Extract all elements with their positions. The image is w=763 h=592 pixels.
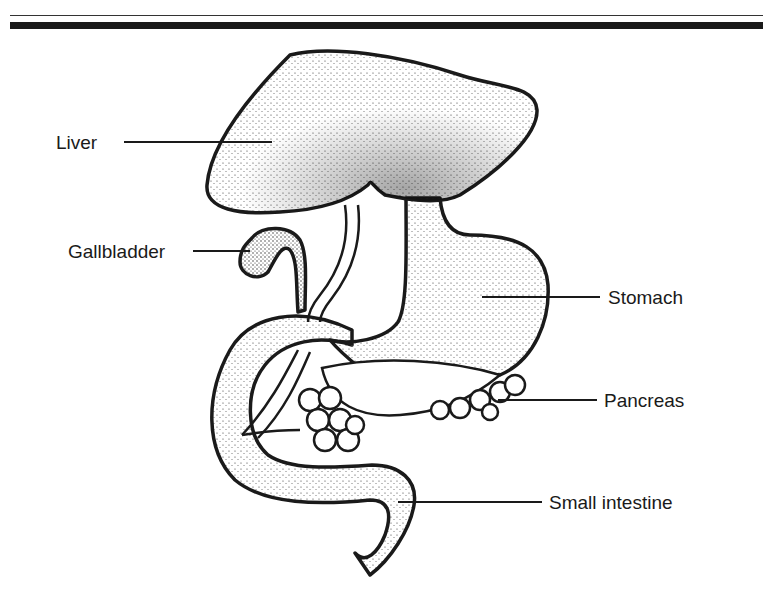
liver-shape <box>207 51 537 213</box>
label-gallbladder: Gallbladder <box>68 242 165 261</box>
label-small-intestine: Small intestine <box>549 493 673 512</box>
label-liver: Liver <box>56 133 97 152</box>
pancreas-shape <box>299 361 525 451</box>
label-pancreas: Pancreas <box>604 391 684 410</box>
gallbladder-shape <box>240 228 306 312</box>
stomach-shape <box>330 198 548 375</box>
label-stomach: Stomach <box>608 288 683 307</box>
